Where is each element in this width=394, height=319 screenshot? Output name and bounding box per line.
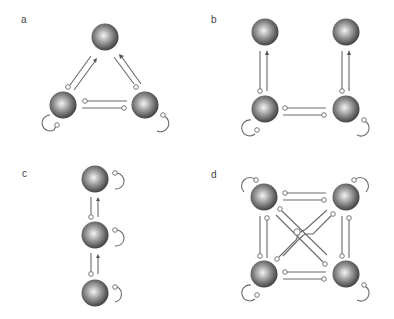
node-sphere <box>82 166 109 193</box>
node-sphere <box>252 19 279 46</box>
self-loop <box>242 285 255 301</box>
panel-c: c <box>22 166 124 307</box>
node-sphere <box>251 261 278 288</box>
node-sphere <box>252 96 279 123</box>
edge-pair <box>258 216 270 259</box>
node-sphere <box>82 222 109 249</box>
node-sphere <box>92 24 119 51</box>
diagram-canvas: a b <box>0 0 394 319</box>
panel-d: d <box>211 169 369 301</box>
edge-pair <box>283 270 327 282</box>
edge-pair <box>89 253 100 276</box>
node-sphere <box>50 92 77 119</box>
panel-label-c: c <box>22 168 27 179</box>
edge-pair <box>114 54 141 89</box>
edge-pair <box>82 99 127 111</box>
self-loop <box>115 173 124 189</box>
node-sphere <box>82 280 109 307</box>
node-sphere <box>333 19 360 46</box>
arrowhead-icon <box>96 197 100 201</box>
self-loop <box>242 120 255 136</box>
node-sphere <box>333 261 360 288</box>
panel-label-d: d <box>211 169 217 180</box>
node-sphere <box>333 184 360 211</box>
node-sphere <box>333 96 360 123</box>
panel-b: b <box>211 14 369 136</box>
panel-label-b: b <box>211 14 217 25</box>
self-loop <box>157 116 169 132</box>
edge-pair <box>340 216 352 259</box>
self-loop <box>42 115 56 131</box>
arrowhead-icon <box>265 50 269 55</box>
panel-a: a <box>21 14 169 132</box>
edge-pair <box>258 50 269 93</box>
panel-label-a: a <box>21 14 27 25</box>
self-loop <box>357 286 369 301</box>
arrowhead-icon <box>347 50 351 55</box>
arrowhead-icon <box>96 254 100 258</box>
self-loop <box>115 230 124 246</box>
node-sphere <box>251 184 278 211</box>
edge-pair <box>283 191 327 203</box>
edge-pair <box>66 56 97 90</box>
edge-pair <box>340 50 351 93</box>
self-loop <box>357 121 369 136</box>
edge-pair <box>89 197 100 219</box>
node-sphere <box>132 92 159 119</box>
edge-pair <box>283 106 327 118</box>
